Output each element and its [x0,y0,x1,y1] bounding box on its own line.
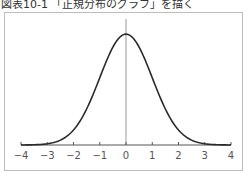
x-tick-label: 3 [202,150,208,161]
x-tick-label: −4 [14,150,29,161]
x-tick-label: 2 [175,150,181,161]
chart-canvas: −4−3−2−101234 [0,0,246,174]
x-tick-label: −2 [66,150,81,161]
x-tick-label: −1 [92,150,107,161]
x-tick-label: 4 [228,150,234,161]
x-tick-label: 1 [149,150,155,161]
x-tick-label: −3 [40,150,55,161]
x-tick-label: 0 [123,150,129,161]
x-tick-labels: −4−3−2−101234 [14,150,235,161]
